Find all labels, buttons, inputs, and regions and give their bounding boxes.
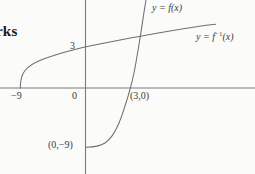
point-label-3-0: (3,0): [130, 91, 149, 101]
margin-text-fragment: rks: [0, 24, 17, 39]
x-axis-tick-label-neg9: −9: [11, 91, 22, 101]
inverse-label-prefix: y = f: [196, 31, 215, 42]
point-label-0-neg9: (0,−9): [48, 140, 73, 150]
function-curve-label: y = f(x): [152, 3, 182, 13]
y-axis-tick-label-3: 3: [70, 41, 75, 51]
origin-label: 0: [72, 91, 77, 101]
inverse-function-figure: rks y = f(x) y = f−1(x) 3 0 −9 (3,0) (0,…: [0, 0, 255, 174]
graph-canvas: [0, 0, 255, 174]
inverse-function-curve-label: y = f−1(x): [196, 31, 234, 42]
function-curve: [86, 0, 146, 147]
inverse-function-curve: [20, 24, 215, 88]
inverse-label-suffix: (x): [222, 31, 233, 42]
